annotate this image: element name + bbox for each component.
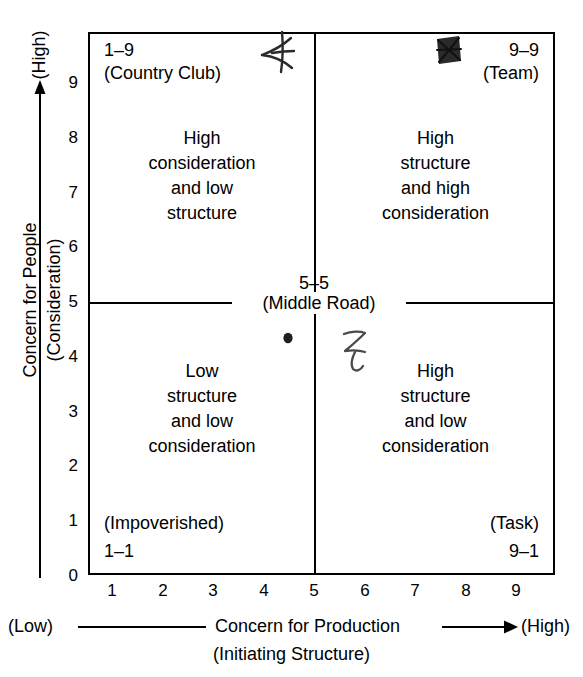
code-1-1: 1–1 [104, 541, 134, 561]
x-tick-3: 3 [202, 582, 224, 599]
label-task: (Task) [490, 513, 539, 533]
qbr-line3: and low [316, 409, 555, 434]
qbl-line4: consideration [90, 434, 314, 459]
handwritten-z-scribble-mark [338, 328, 372, 374]
quadrant-top-right-description: High structure and high consideration [316, 126, 555, 226]
quadrant-top-left-code: 1–9 [104, 39, 134, 62]
qbl-line1: Low [90, 359, 314, 384]
quadrant-bottom-right-name: (Task) [490, 512, 539, 535]
y-axis-arrow-icon [30, 78, 50, 578]
quadrant-top-right-code: 9–9 [509, 39, 539, 62]
qtr-line3: and high [316, 176, 555, 201]
quadrant-bottom-right-code: 9–1 [509, 540, 539, 563]
code-9-9: 9–9 [509, 40, 539, 60]
quadrant-divider-horizontal-left [90, 302, 235, 304]
code-1-9: 1–9 [104, 40, 134, 60]
handwritten-dot-mark [280, 330, 296, 346]
qtr-line4: consideration [316, 201, 555, 226]
qbl-line2: structure [90, 384, 314, 409]
managerial-grid-figure: Concern for People (Consideration) (High… [0, 0, 583, 677]
x-axis-rule-left [78, 626, 206, 628]
x-axis-arrowhead-icon [500, 618, 520, 636]
y-tick-2: 2 [56, 457, 78, 474]
x-tick-6: 6 [354, 582, 376, 599]
y-tick-1: 1 [56, 512, 78, 529]
ql-line4: structure [90, 201, 314, 226]
y-tick-4: 4 [56, 348, 78, 365]
quadrant-bottom-right-description: High structure and low consideration [316, 359, 555, 459]
y-tick-0: 0 [56, 567, 78, 584]
x-axis-title: Concern for Production [215, 614, 400, 638]
x-tick-5: 5 [303, 582, 325, 599]
y-tick-3: 3 [56, 403, 78, 420]
code-5-5: 5–5 [299, 273, 329, 293]
ql-line3: and low [90, 176, 314, 201]
x-tick-7: 7 [404, 582, 426, 599]
x-axis-rule-right [442, 626, 504, 628]
grid-plot-area: 1–9 (Country Club) High consideration an… [88, 32, 555, 575]
x-axis-subtitle: (Initiating Structure) [0, 642, 583, 666]
quadrant-top-left-name: (Country Club) [104, 62, 221, 85]
quadrant-top-right-name: (Team) [483, 62, 539, 85]
center-label: (Middle Road) [232, 292, 406, 314]
ql-line2: consideration [90, 151, 314, 176]
handwritten-arrow-scribble-mark [258, 28, 302, 76]
y-tick-5: 5 [56, 293, 78, 310]
quadrant-bottom-left-name: (Impoverished) [104, 512, 224, 535]
y-tick-6: 6 [56, 238, 78, 255]
x-tick-9: 9 [505, 582, 527, 599]
x-tick-1: 1 [101, 582, 123, 599]
qtr-line1: High [316, 126, 555, 151]
qbl-line3: and low [90, 409, 314, 434]
qtr-line2: structure [316, 151, 555, 176]
quadrant-bottom-left-description: Low structure and low consideration [90, 359, 314, 459]
handwritten-blob-scribble-mark [428, 31, 468, 73]
center-code: 5–5 [234, 272, 394, 294]
x-tick-2: 2 [152, 582, 174, 599]
quadrant-top-left-description: High consideration and low structure [90, 126, 314, 226]
y-tick-7: 7 [56, 184, 78, 201]
label-team: (Team) [483, 63, 539, 83]
x-axis-high-label: (High) [521, 614, 570, 638]
label-country-club: (Country Club) [104, 63, 221, 83]
label-impoverished: (Impoverished) [104, 513, 224, 533]
quadrant-bottom-left-code: 1–1 [104, 540, 134, 563]
x-axis-low-label: (Low) [8, 614, 53, 638]
code-9-1: 9–1 [509, 541, 539, 561]
label-middle-road: (Middle Road) [262, 293, 375, 313]
ql-line1: High [90, 126, 314, 151]
y-tick-9: 9 [56, 74, 78, 91]
x-tick-4: 4 [253, 582, 275, 599]
x-tick-8: 8 [455, 582, 477, 599]
qbr-line4: consideration [316, 434, 555, 459]
qbr-line2: structure [316, 384, 555, 409]
quadrant-divider-horizontal-right [394, 302, 555, 304]
y-tick-8: 8 [56, 129, 78, 146]
